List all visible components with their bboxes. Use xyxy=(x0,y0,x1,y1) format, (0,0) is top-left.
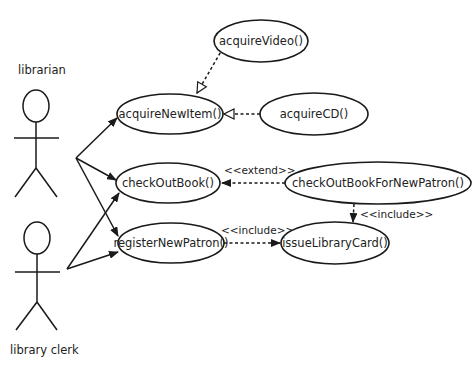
actor-library-clerk: library clerk xyxy=(10,222,79,357)
svg-text:checkOutBookForNewPatron(): checkOutBookForNewPatron() xyxy=(292,176,464,190)
actor-label-library-clerk: library clerk xyxy=(10,343,79,357)
svg-text:acquireVideo(): acquireVideo() xyxy=(219,34,303,48)
actor-head-icon xyxy=(24,222,50,254)
actor-head-icon xyxy=(23,90,49,122)
actor-label-librarian: librarian xyxy=(18,63,66,77)
associations xyxy=(67,118,119,269)
use-case-acquire-new-item: acquireNewItem() xyxy=(117,94,223,134)
use-case-diagram: librarian library clerk <<extend>> <<inc… xyxy=(0,0,472,365)
svg-text:checkOutBook(): checkOutBook() xyxy=(122,176,214,190)
svg-text:acquireNewItem(): acquireNewItem() xyxy=(119,107,222,121)
svg-text:issueLibraryCard(): issueLibraryCard() xyxy=(282,236,388,250)
include-label-b: <<include>> xyxy=(360,208,433,220)
use-case-check-out-book-for-new-patron: checkOutBookForNewPatron() xyxy=(285,162,471,204)
use-case-acquire-video: acquireVideo() xyxy=(214,20,308,62)
use-case-check-out-book: checkOutBook() xyxy=(116,163,220,203)
extend-label: <<extend>> xyxy=(224,164,296,176)
use-case-register-new-patron: registerNewPatron() xyxy=(113,223,228,263)
include-label-a: <<include>> xyxy=(221,224,294,236)
use-case-issue-library-card: issueLibraryCard() xyxy=(281,222,389,264)
use-case-acquire-cd: acquireCD() xyxy=(260,93,368,135)
actor-librarian: librarian xyxy=(14,63,66,197)
svg-text:acquireCD(): acquireCD() xyxy=(280,107,349,121)
svg-text:registerNewPatron(): registerNewPatron() xyxy=(113,236,228,250)
